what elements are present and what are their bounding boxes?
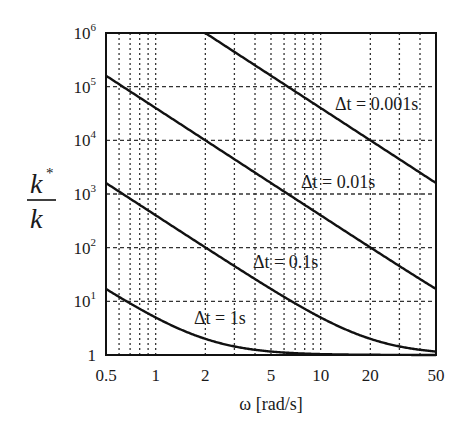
y-tick-label: 102	[74, 236, 97, 258]
x-tick-label: 1	[151, 366, 160, 385]
curve-label-dt-1: Δt = 1s	[194, 308, 246, 328]
curve-label-dt-0001: Δt = 0.001s	[335, 94, 418, 114]
grid-lines	[106, 33, 436, 355]
y-label-denominator: k	[30, 203, 43, 234]
x-tick-label: 10	[312, 366, 329, 385]
y-tick-label: 105	[74, 75, 97, 97]
y-label-star: *	[46, 165, 54, 181]
y-tick-label: 103	[74, 182, 97, 204]
y-tick-label: 104	[74, 128, 97, 150]
y-axis-label: k * k	[27, 165, 56, 234]
y-label-numerator: k	[30, 168, 43, 199]
y-tick-labels: 1101102103104105106	[74, 21, 97, 365]
x-axis-label: ω [rad/s]	[239, 394, 302, 414]
x-tick-label: 2	[201, 366, 210, 385]
y-tick-label: 106	[74, 21, 97, 43]
chart: 1101102103104105106 0.5125102050 k * k ω…	[0, 0, 469, 431]
y-tick-label: 1	[88, 346, 97, 365]
curve-label-dt-001: Δt = 0.01s	[301, 172, 375, 192]
y-tick-label: 101	[74, 289, 97, 311]
x-tick-label: 50	[428, 366, 445, 385]
x-tick-label: 20	[362, 366, 379, 385]
x-tick-label: 0.5	[95, 366, 116, 385]
x-tick-labels: 0.5125102050	[95, 366, 444, 385]
curve-label-dt-01: Δt = 0.1s	[253, 252, 318, 272]
x-tick-label: 5	[267, 366, 276, 385]
